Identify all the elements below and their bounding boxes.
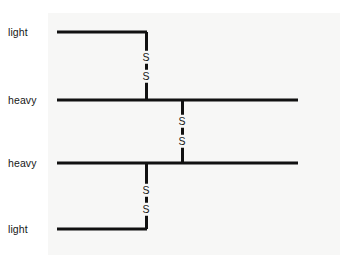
chain-label-light-top: light <box>8 27 28 38</box>
chain-label-light-bottom: light <box>8 224 28 235</box>
disulfide-bridge-interchain-stem <box>181 100 184 163</box>
light-chain-bottom-line <box>57 228 147 231</box>
heavy-chain-lower-line <box>57 162 298 165</box>
antibody-chain-diagram: light heavy heavy light S S S S S S <box>0 0 352 265</box>
figure-panel-background <box>48 13 340 255</box>
sulfur-atom-lower-1: S <box>140 184 151 197</box>
heavy-chain-upper-line <box>57 99 298 102</box>
light-chain-top-line <box>57 31 147 34</box>
sulfur-atom-upper-2: S <box>140 70 151 83</box>
sulfur-atom-upper-1: S <box>140 51 151 64</box>
sulfur-atom-interchain-2: S <box>176 135 187 148</box>
sulfur-atom-interchain-1: S <box>176 115 187 128</box>
disulfide-bridge-upper-light-heavy-stem <box>145 32 148 100</box>
chain-label-heavy-lower: heavy <box>8 158 37 169</box>
chain-label-heavy-upper: heavy <box>8 95 37 106</box>
sulfur-atom-lower-2: S <box>140 203 151 216</box>
